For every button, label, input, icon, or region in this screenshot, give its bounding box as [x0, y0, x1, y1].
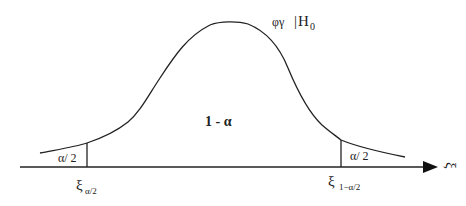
density-curve — [40, 22, 405, 157]
axis-label: ξ — [443, 162, 459, 169]
condition-bar: | — [294, 13, 297, 29]
distribution-label: φγ — [272, 15, 285, 29]
left-critical-subscript: α/2 — [85, 186, 97, 196]
right-critical-symbol: ξ — [328, 173, 335, 189]
right-tail-label: α/ 2 — [350, 149, 369, 163]
hypothesis-label: H — [298, 13, 309, 29]
hypothesis-subscript: 0 — [310, 21, 315, 32]
right-critical-subscript: 1−α/2 — [339, 182, 360, 192]
left-tail-label: α/ 2 — [58, 151, 77, 165]
x-axis-arrowhead — [423, 161, 438, 173]
acceptance-region-label: 1 - α — [205, 114, 232, 129]
left-critical-symbol: ξ — [76, 177, 83, 193]
hypothesis-test-diagram: φγ | H 0 1 - α α/ 2 α/ 2 ξ α/2 ξ 1−α/2 ξ — [0, 0, 466, 206]
